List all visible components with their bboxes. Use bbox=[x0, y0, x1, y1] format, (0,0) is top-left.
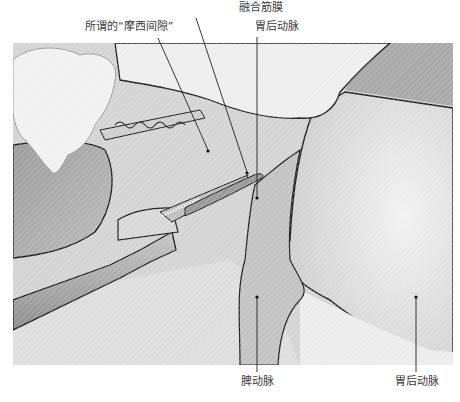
label-morse-space: 所谓的“摩西间隙” bbox=[85, 20, 173, 33]
leader-dot bbox=[255, 196, 258, 199]
label-posterior-gastric-artery-top: 胃后动脉 bbox=[255, 20, 299, 33]
leader-dot bbox=[245, 171, 248, 174]
label-fusion-fascia: 融合筋膜 bbox=[239, 1, 283, 14]
texture-overlay bbox=[13, 43, 453, 365]
anatomy-drawing bbox=[0, 0, 460, 402]
leader-dot bbox=[414, 295, 417, 298]
label-posterior-gastric-artery-bottom: 胃后动脉 bbox=[395, 375, 439, 388]
surgical-illustration: 融合筋膜 所谓的“摩西间隙” 胃后动脉 脾动脉 胃后动脉 bbox=[0, 0, 460, 402]
leader-dot bbox=[206, 149, 209, 152]
label-splenic-artery: 脾动脉 bbox=[241, 375, 274, 388]
leader-dot bbox=[255, 295, 258, 298]
